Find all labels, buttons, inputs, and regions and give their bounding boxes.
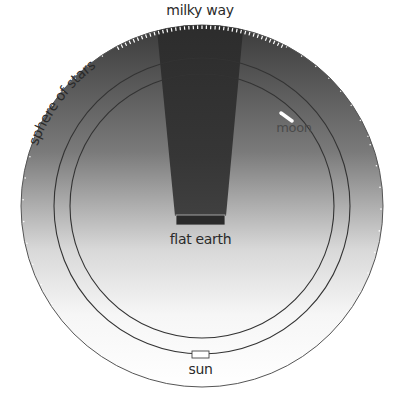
star-tick: [328, 78, 329, 79]
sun-shape: [192, 351, 209, 358]
star-dot: [358, 292, 360, 294]
star-dot: [367, 272, 369, 274]
star-dot: [51, 303, 53, 305]
star-tick: [171, 28, 172, 32]
star-tick: [176, 27, 177, 31]
star-dot: [379, 187, 381, 189]
star-dot: [22, 199, 24, 201]
moon-label: moon: [276, 120, 312, 135]
cosmology-diagram: flat earth moon sun milky way sphere of …: [0, 0, 398, 411]
star-tick: [228, 27, 229, 31]
star-tick: [315, 66, 316, 67]
star-dot: [374, 252, 376, 254]
star-tick: [301, 56, 302, 57]
star-dot: [26, 242, 28, 244]
star-dot: [23, 221, 25, 223]
star-tick: [241, 30, 242, 34]
star-tick: [167, 29, 168, 33]
star-dot: [29, 156, 31, 158]
star-tick: [102, 56, 103, 57]
star-tick: [351, 105, 352, 106]
flat-earth-label: flat earth: [170, 231, 232, 247]
flat-earth-shape: [176, 215, 225, 225]
star-dot: [369, 144, 371, 146]
star-dot: [379, 230, 381, 232]
sun-label: sun: [188, 361, 212, 377]
star-dot: [380, 208, 382, 210]
star-dot: [346, 310, 348, 312]
star-tick: [232, 28, 233, 32]
milky-way-label: milky way: [166, 2, 233, 18]
star-tick: [360, 120, 361, 121]
star-tick: [286, 47, 287, 48]
star-dot: [32, 264, 34, 266]
star-tick: [236, 29, 237, 33]
star-tick: [340, 91, 341, 92]
star-dot: [40, 284, 42, 286]
star-dot: [24, 177, 26, 179]
star-tick: [163, 30, 164, 34]
star-dot: [64, 320, 66, 322]
star-dot: [376, 165, 378, 167]
